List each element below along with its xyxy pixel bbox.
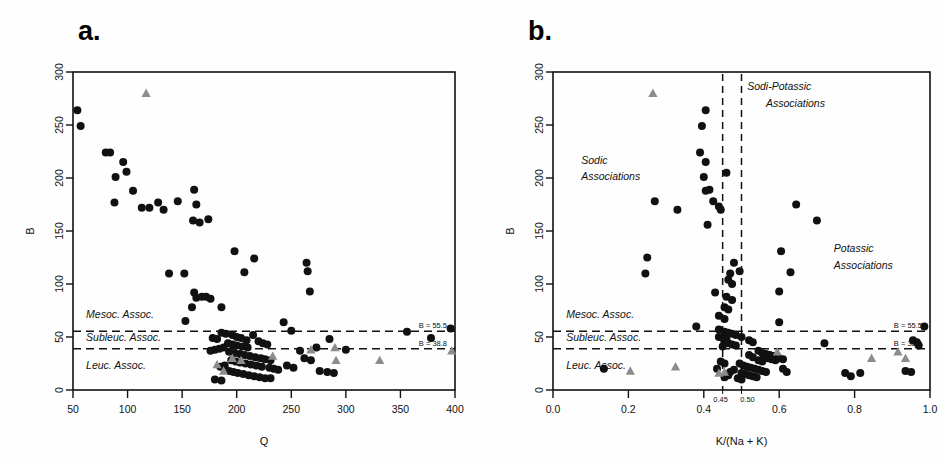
- data-point-circle: [813, 216, 821, 224]
- data-point-circle: [73, 106, 81, 114]
- data-point-circle: [730, 259, 738, 267]
- data-point-triangle: [671, 362, 680, 370]
- data-point-circle: [180, 269, 188, 277]
- data-point-circle: [779, 355, 787, 363]
- panel-a: a. 050100150200250300B501001502002503003…: [0, 0, 480, 462]
- data-point-circle: [165, 269, 173, 277]
- y-tick-label: 250: [533, 116, 545, 134]
- panel-b: b. 050100150200250300B0.00.20.40.60.81.0…: [480, 0, 945, 462]
- data-point-circle: [702, 187, 710, 195]
- data-point-circle: [213, 335, 221, 343]
- data-point-circle: [174, 197, 182, 205]
- x-tick-label: 250: [283, 403, 301, 415]
- data-point-circle: [749, 353, 757, 361]
- data-point-circle: [762, 368, 770, 376]
- data-point-circle: [267, 374, 275, 382]
- data-point-circle: [307, 356, 315, 364]
- x-axis-title: K/(Na + K): [716, 435, 768, 447]
- data-point-circle: [240, 268, 248, 276]
- data-point-circle: [330, 369, 338, 377]
- data-point-circle: [181, 317, 189, 325]
- data-point-circle: [600, 365, 608, 373]
- y-tick-label: 200: [53, 169, 65, 187]
- y-tick-label: 0: [533, 387, 545, 393]
- x-axis-title: Q: [260, 435, 269, 447]
- data-point-circle: [696, 149, 704, 157]
- data-point-circle: [145, 204, 153, 212]
- data-point-circle: [325, 335, 333, 343]
- data-point-circle: [280, 318, 288, 326]
- x-tick-label: 0.6: [772, 403, 787, 415]
- series-circles: [600, 106, 928, 383]
- data-point-circle: [792, 201, 800, 209]
- region-annotation: Sodi-Potassic: [747, 80, 812, 92]
- data-point-circle: [702, 106, 710, 114]
- y-tick-label: 100: [53, 275, 65, 293]
- data-point-triangle: [330, 343, 339, 351]
- boundary-hline-label: B = 55.5: [419, 321, 447, 330]
- data-point-circle: [651, 197, 659, 205]
- data-point-circle: [673, 206, 681, 214]
- panel-b-plot: 050100150200250300B0.00.20.40.60.81.00.4…: [480, 0, 945, 462]
- x-tick-minor-label: 0.45: [713, 395, 728, 404]
- region-annotation: Associations: [765, 97, 826, 109]
- data-point-circle: [736, 267, 744, 275]
- data-point-circle: [207, 347, 215, 355]
- data-point-circle: [110, 198, 118, 206]
- region-annotation: Leuc. Assoc.: [86, 359, 146, 371]
- x-tick-label: 0.0: [546, 403, 561, 415]
- data-point-circle: [907, 368, 915, 376]
- data-point-circle: [920, 322, 928, 330]
- x-tick-label: 0.4: [696, 403, 711, 415]
- y-tick-label: 50: [53, 331, 65, 343]
- y-axis-title: B: [504, 227, 516, 234]
- boundary-hline-label: B = 55.5: [894, 321, 922, 330]
- data-point-circle: [204, 215, 212, 223]
- data-point-circle: [263, 340, 271, 348]
- data-point-circle: [700, 173, 708, 181]
- region-annotation: Sodic: [581, 154, 608, 166]
- data-point-circle: [274, 366, 282, 374]
- data-point-circle: [342, 346, 350, 354]
- panel-a-label: a.: [78, 16, 101, 47]
- data-point-circle: [160, 206, 168, 214]
- data-point-circle: [777, 247, 785, 255]
- data-point-circle: [820, 339, 828, 347]
- data-point-circle: [403, 328, 411, 336]
- data-point-triangle: [142, 89, 151, 97]
- y-tick-label: 50: [533, 331, 545, 343]
- data-point-circle: [643, 254, 651, 262]
- data-point-circle: [217, 376, 225, 384]
- region-annotation: Associations: [833, 259, 894, 271]
- y-tick-label: 300: [53, 63, 65, 81]
- data-point-circle: [296, 347, 304, 355]
- data-point-circle: [717, 206, 725, 214]
- x-tick-label: 400: [446, 403, 464, 415]
- data-point-circle: [749, 338, 757, 346]
- data-point-circle: [244, 344, 252, 352]
- data-point-circle: [77, 122, 85, 130]
- data-point-circle: [217, 303, 225, 311]
- data-point-circle: [721, 315, 729, 323]
- data-point-circle: [447, 325, 455, 333]
- y-tick-label: 250: [53, 116, 65, 134]
- data-point-circle: [190, 186, 198, 194]
- y-tick-label: 150: [533, 222, 545, 240]
- data-point-circle: [738, 375, 746, 383]
- x-tick-label: 0.8: [847, 403, 862, 415]
- data-point-circle: [722, 169, 730, 177]
- data-point-circle: [122, 168, 130, 176]
- y-tick-label: 100: [533, 275, 545, 293]
- data-point-circle: [112, 173, 120, 181]
- x-tick-label: 0.2: [621, 403, 636, 415]
- data-point-circle: [721, 360, 729, 368]
- data-point-circle: [692, 322, 700, 330]
- y-tick-label: 300: [533, 63, 545, 81]
- data-point-circle: [316, 367, 324, 375]
- data-point-circle: [775, 287, 783, 295]
- region-annotation: Mesoc. Assoc.: [566, 308, 634, 320]
- data-point-circle: [304, 267, 312, 275]
- data-point-circle: [287, 327, 295, 335]
- data-point-circle: [856, 369, 864, 377]
- y-tick-label: 200: [533, 169, 545, 187]
